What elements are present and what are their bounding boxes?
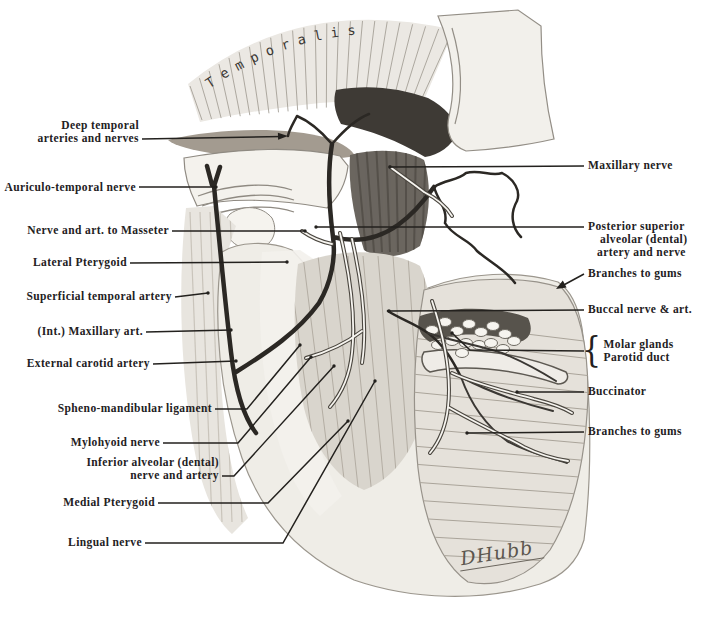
label-line: Deep temporal — [38, 119, 140, 132]
label-line: Posterior superior — [588, 220, 687, 233]
label-molar-glands-parotid-duct: { Molar glands Parotid duct — [582, 338, 674, 364]
label-line: Spheno-mandibular ligament — [58, 402, 212, 415]
label-inferior-alveolar-nerve-and-artery: Inferior alveolar (dental) nerve and art… — [86, 456, 219, 482]
label-line: Buccinator — [588, 385, 646, 398]
label-external-carotid-artery: External carotid artery — [27, 357, 150, 370]
label-deep-temporal-arteries-and-nerves: Deep temporal arteries and nerves — [38, 119, 140, 145]
label-line-group: Molar glands Parotid duct — [604, 338, 674, 364]
label-line: Auriculo-temporal nerve — [4, 181, 136, 194]
label-line: External carotid artery — [27, 357, 150, 370]
figure-base — [168, 10, 592, 596]
label-line: Nerve and art. to Masseter — [27, 224, 169, 237]
label-line: Inferior alveolar (dental) — [86, 456, 219, 469]
label-line: Lingual nerve — [68, 536, 142, 549]
label-line: Medial Pterygoid — [63, 496, 155, 509]
label-line: alveolar (dental) — [600, 233, 687, 246]
label-line: Branches to gums — [588, 425, 682, 438]
label-buccinator: Buccinator — [588, 385, 646, 398]
label-line: Buccal nerve & art. — [588, 303, 692, 316]
label-internal-maxillary-artery: (Int.) Maxillary art. — [38, 325, 144, 338]
label-branches-to-gums-lower: Branches to gums — [588, 425, 682, 438]
label-superficial-temporal-artery: Superficial temporal artery — [26, 290, 172, 303]
label-lingual-nerve: Lingual nerve — [68, 536, 142, 549]
label-medial-pterygoid: Medial Pterygoid — [63, 496, 155, 509]
label-auriculo-temporal-nerve: Auriculo-temporal nerve — [4, 181, 136, 194]
label-nerve-and-artery-to-masseter: Nerve and art. to Masseter — [27, 224, 169, 237]
label-line: nerve and artery — [86, 469, 219, 482]
label-maxillary-nerve: Maxillary nerve — [588, 159, 673, 172]
label-line: Maxillary nerve — [588, 159, 673, 172]
label-line: (Int.) Maxillary art. — [38, 325, 144, 338]
label-posterior-superior-alveolar-artery-and-nerve: Posterior superior alveolar (dental) art… — [588, 220, 687, 259]
label-line: artery and nerve — [597, 246, 687, 259]
label-buccal-nerve-and-artery: Buccal nerve & art. — [588, 303, 692, 316]
label-lateral-pterygoid: Lateral Pterygoid — [33, 256, 127, 269]
label-line: arteries and nerves — [38, 132, 140, 145]
label-spheno-mandibular-ligament: Spheno-mandibular ligament — [58, 402, 212, 415]
label-line: Mylohyoid nerve — [71, 436, 160, 449]
label-branches-to-gums-upper: Branches to gums — [588, 267, 682, 280]
anatomy-plate: Temporalis Deep temporal arteries and ne… — [0, 0, 714, 621]
label-line: Lateral Pterygoid — [33, 256, 127, 269]
maxilla-cut-bone — [438, 10, 554, 151]
label-line: Molar glands — [604, 338, 674, 351]
brace-glyph: { — [582, 336, 602, 366]
label-mylohyoid-nerve: Mylohyoid nerve — [71, 436, 160, 449]
label-line: Branches to gums — [588, 267, 682, 280]
label-line: Superficial temporal artery — [26, 290, 172, 303]
label-line: Parotid duct — [604, 351, 674, 364]
